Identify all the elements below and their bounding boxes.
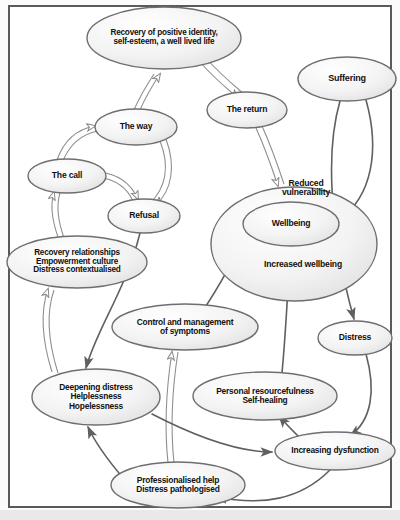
node-distress[interactable] [318,321,392,355]
edge-recovery-relationships-to-the-call [52,192,58,237]
bottom-strip [0,510,400,520]
edge-the-way-to-refusal-b [150,141,165,203]
edge-the-way-to-refusal [156,139,171,205]
node-deepening_distress[interactable] [32,369,160,425]
edge-deepening-distress-to-recovery-relationships-b [49,290,58,373]
node-the_call[interactable] [28,159,106,193]
edge-the-call-to-the-way [57,126,95,160]
node-recovery_relationships[interactable] [7,236,147,288]
edge-professionalised-help-to-control-management-b [172,352,178,463]
node-personal_resourcefulness[interactable] [193,372,337,420]
edge-professionalised-help-to-control-management [166,352,172,463]
edge-the-call-to-the-way-b [62,131,98,163]
node-the_way[interactable] [95,109,177,145]
node-professionalised_help[interactable] [111,462,245,508]
node-suffering[interactable] [298,57,396,101]
node-increasing_dysfunction[interactable] [275,432,395,470]
edge-professionalised-help-to-deepening-distress [88,427,124,479]
node-control_management[interactable] [112,304,258,350]
node-refusal[interactable] [108,199,180,233]
edge-recovery-identity-to-the-return-b [206,58,244,94]
diagram-svg [0,0,400,520]
node-the_return[interactable] [207,92,287,128]
node-recovery_identity[interactable] [87,7,241,69]
node-wellbeing[interactable] [243,202,339,246]
edge-the-way-to-recovery-identity-b [133,74,154,112]
nodes-layer [7,7,396,508]
edge-distress-to-increasing-dysfunction [350,354,371,436]
diagram-canvas: Recovery of positive identity, self-este… [0,0,400,520]
edge-the-return-to-reduced-vulnerability-b [262,126,284,184]
edge-recovery-relationships-to-the-call-b [58,193,64,238]
